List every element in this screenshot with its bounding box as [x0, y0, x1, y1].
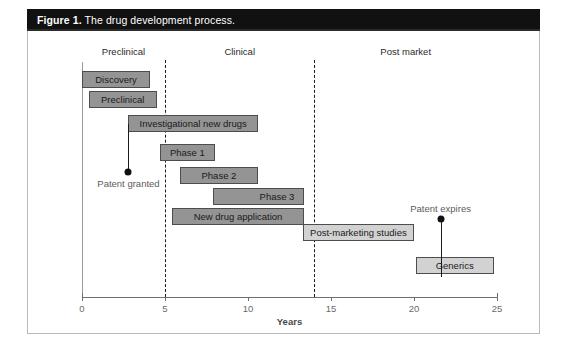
patent-granted-line: [128, 124, 129, 172]
patent-expires-label: Patent expires: [410, 203, 471, 215]
x-tick-label-0: 0: [79, 303, 84, 314]
stage-header-3: Post market: [380, 46, 431, 57]
x-tick-5: [165, 297, 166, 301]
bar-2: Preclinical: [89, 91, 157, 108]
x-tick-10: [248, 297, 249, 301]
patent-granted-dot: [125, 169, 132, 176]
x-tick-label-20: 20: [409, 303, 420, 314]
x-axis-line: [82, 297, 497, 298]
bar-6: Phase 3: [213, 188, 304, 205]
gantt-plot-area: PreclinicalClinicalPost marketDiscoveryP…: [0, 0, 567, 344]
x-tick-label-10: 10: [243, 303, 254, 314]
bar-4: Phase 1: [160, 144, 215, 161]
x-tick-25: [497, 297, 498, 301]
stage-divider-2: [314, 60, 315, 297]
bar-1: Discovery: [82, 71, 150, 88]
axis-left-rule: [82, 62, 83, 297]
bar-8: Post-marketing studies: [303, 224, 414, 241]
x-axis-title: Years: [277, 316, 302, 327]
bar-5: Phase 2: [180, 167, 258, 184]
x-tick-20: [414, 297, 415, 301]
stage-divider-1: [165, 60, 166, 297]
bar-9: Generics: [416, 257, 494, 274]
x-tick-0: [82, 297, 83, 301]
x-tick-label-25: 25: [492, 303, 503, 314]
bar-3: Investigational new drugs: [128, 115, 257, 132]
patent-granted-label: Patent granted: [93, 178, 163, 190]
stage-header-2: Clinical: [224, 46, 255, 57]
figure-root: Figure 1. The drug development process. …: [0, 0, 567, 344]
stage-header-1: Preclinical: [102, 46, 145, 57]
bar-7: New drug application: [172, 208, 305, 225]
patent-expires-line: [441, 219, 442, 277]
x-tick-label-15: 15: [326, 303, 337, 314]
x-tick-label-5: 5: [162, 303, 167, 314]
x-tick-15: [331, 297, 332, 301]
